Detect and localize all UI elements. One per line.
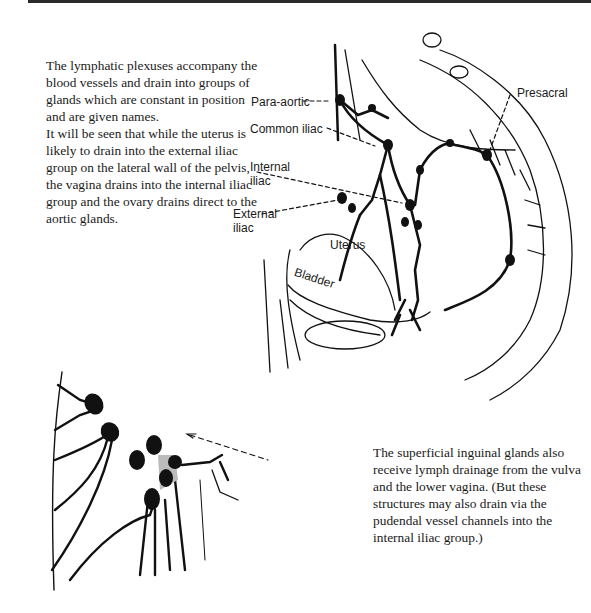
- inguinal-glands-illustration: [0, 0, 591, 613]
